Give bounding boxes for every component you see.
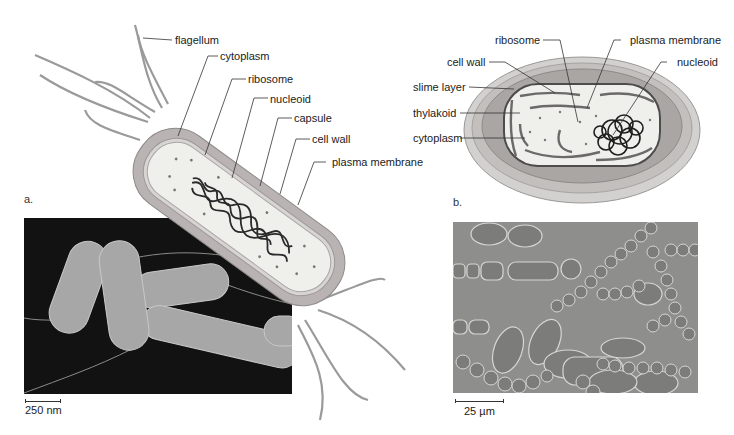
label-plasma-membrane-a: plasma membrane bbox=[332, 156, 423, 168]
label-thylakoid: thylakoid bbox=[413, 107, 456, 119]
label-ribosome-b: ribosome bbox=[495, 34, 540, 46]
label-ribosome-a: ribosome bbox=[248, 73, 293, 85]
label-cell-wall-b: cell wall bbox=[447, 56, 486, 68]
scale-bar-line-b bbox=[455, 399, 504, 403]
label-nucleoid-a: nucleoid bbox=[270, 93, 311, 105]
label-flagellum: flagellum bbox=[175, 34, 219, 46]
label-slime-layer: slime layer bbox=[413, 81, 466, 93]
scale-bar-label-b: 25 µm bbox=[464, 405, 495, 417]
label-capsule: capsule bbox=[294, 112, 332, 124]
label-nucleoid-b: nucleoid bbox=[677, 56, 718, 68]
scale-bar-line-a bbox=[25, 399, 61, 403]
label-cytoplasm-a: cytoplasm bbox=[220, 50, 270, 62]
label-plasma-membrane-b: plasma membrane bbox=[630, 34, 721, 46]
label-cytoplasm-b: cytoplasm bbox=[413, 132, 463, 144]
cell-diagrams bbox=[0, 0, 734, 435]
scale-bar-label-a: 250 nm bbox=[25, 404, 62, 416]
cyanobacterium-diagram bbox=[464, 57, 700, 203]
panel-letter-a: a. bbox=[24, 193, 33, 205]
label-cell-wall-a: cell wall bbox=[312, 133, 351, 145]
panel-letter-b: b. bbox=[453, 196, 462, 208]
